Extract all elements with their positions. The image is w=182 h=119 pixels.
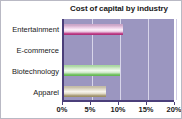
chart-figure: Cost of capital by industry 0%5%10%15%20… (0, 0, 182, 119)
x-axis-label-15pct: 15% (138, 105, 153, 114)
bar-biotechnology (64, 65, 120, 76)
x-axis-label-0pct: 0% (57, 105, 68, 114)
y-axis-label-entertainment: Entertainment (12, 25, 59, 34)
bar-series (64, 19, 174, 100)
chart-title: Cost of capital by industry (57, 4, 181, 13)
x-axis-label-20pct: 20% (166, 105, 181, 114)
x-axis-tick-labels: 0%5%10%15%20% (1, 105, 182, 117)
y-axis-label-e-commerce: E-commerce (16, 46, 59, 55)
bar-apparel (64, 86, 106, 97)
x-axis-label-5pct: 5% (85, 105, 96, 114)
y-axis-label-biotechnology: Biotechnology (12, 67, 59, 76)
bar-entertainment (64, 24, 123, 35)
plot-area (62, 19, 174, 102)
x-axis-label-10pct: 10% (110, 105, 125, 114)
bar-e-commerce (64, 45, 166, 56)
gridline-20pct (176, 19, 177, 100)
y-axis-label-apparel: Apparel (33, 88, 59, 97)
y-axis-category-labels: EntertainmentE-commerceBiotechnologyAppa… (1, 19, 59, 102)
